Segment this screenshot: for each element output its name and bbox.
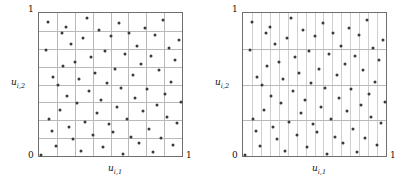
scatter-point — [62, 65, 65, 68]
scatter-point — [360, 104, 363, 107]
scatter-point — [64, 25, 67, 28]
grid-line-horizontal — [39, 120, 182, 121]
scatter-point — [48, 117, 51, 120]
scatter-point — [324, 86, 327, 89]
scatter-point — [84, 120, 87, 123]
grid-line-horizontal — [39, 102, 182, 103]
scatter-point — [376, 143, 379, 146]
scatter-point — [179, 100, 182, 103]
origin-tick-left: 0 — [28, 150, 34, 160]
scatter-point — [39, 153, 42, 156]
x-tick-max-right: 1 — [390, 150, 396, 160]
scatter-point — [72, 138, 75, 141]
scatter-point — [310, 81, 313, 84]
scatter-point — [298, 71, 301, 74]
scatter-point — [370, 115, 373, 118]
scatter-point — [282, 77, 285, 80]
scatter-point — [128, 31, 131, 34]
scatter-point — [274, 43, 277, 46]
scatter-point — [382, 38, 385, 41]
scatter-point — [146, 88, 149, 91]
scatter-point — [350, 88, 353, 91]
scatter-point — [306, 146, 309, 149]
scatter-point — [92, 133, 95, 136]
scatter-point — [88, 89, 91, 92]
scatter-point — [268, 25, 271, 28]
scatter-point — [168, 46, 171, 49]
scatter-point — [116, 105, 119, 108]
scatter-point — [270, 95, 273, 98]
scatter-point — [336, 74, 339, 77]
scatter-point — [144, 27, 147, 30]
scatter-point — [280, 101, 283, 104]
figure-container: ui,2 ui,1 1 0 1 ui,2 ui,1 1 0 1 — [0, 0, 407, 186]
scatter-point — [150, 54, 153, 57]
scatter-point — [46, 21, 49, 24]
scatter-point — [272, 125, 275, 128]
scatter-point — [330, 118, 333, 121]
scatter-point — [126, 118, 129, 121]
scatter-panel-left: ui,2 ui,1 1 0 1 — [0, 0, 203, 186]
scatter-point — [250, 21, 253, 24]
scatter-point — [338, 96, 341, 99]
scatter-point — [118, 22, 121, 25]
scatter-point — [358, 34, 361, 37]
scatter-point — [374, 80, 377, 83]
scatter-point — [318, 68, 321, 71]
scatter-point — [94, 71, 97, 74]
scatter-point — [102, 146, 105, 149]
scatter-panel-right: ui,2 ui,1 1 0 1 — [204, 0, 407, 186]
scatter-point — [100, 98, 103, 101]
scatter-point — [130, 135, 133, 138]
origin-tick-right: 0 — [232, 150, 238, 160]
scatter-point — [290, 17, 293, 20]
scatter-point — [316, 130, 319, 133]
grid-line-horizontal — [39, 67, 182, 68]
scatter-point — [172, 143, 175, 146]
scatter-point — [302, 29, 305, 32]
scatter-point — [86, 17, 89, 20]
scatter-point — [328, 53, 331, 56]
scatter-point — [362, 69, 365, 72]
scatter-point — [156, 104, 159, 107]
scatter-point — [158, 69, 161, 72]
scatter-point — [312, 123, 315, 126]
scatter-point — [108, 123, 111, 126]
scatter-point — [286, 37, 289, 40]
scatter-point — [66, 95, 69, 98]
scatter-point — [124, 53, 127, 56]
y-tick-max-left: 1 — [28, 4, 34, 14]
scatter-point — [60, 31, 63, 34]
scatter-point — [106, 81, 109, 84]
scatter-point — [132, 74, 135, 77]
scatter-point — [176, 122, 179, 125]
scatter-point — [260, 84, 263, 87]
scatter-point — [162, 18, 165, 21]
scatter-point — [120, 86, 123, 89]
y-axis-label-left: ui,2 — [11, 77, 25, 90]
scatter-point — [134, 96, 137, 99]
scatter-point — [74, 60, 77, 63]
scatter-point — [154, 34, 157, 37]
scatter-point — [80, 150, 83, 153]
scatter-point — [258, 144, 261, 147]
scatter-point — [112, 130, 115, 133]
scatter-point — [68, 125, 71, 128]
scatter-point — [278, 60, 281, 63]
scatter-point — [262, 109, 265, 112]
scatter-point — [178, 38, 181, 41]
scatter-point — [320, 105, 323, 108]
scatter-point — [284, 150, 287, 153]
scatter-point — [378, 58, 381, 61]
plot-area-right — [242, 12, 387, 157]
scatter-point — [372, 46, 375, 49]
scatter-point — [58, 109, 61, 112]
x-axis-label-left: ui,1 — [108, 163, 122, 176]
scatter-point — [148, 127, 151, 130]
scatter-point — [366, 18, 369, 21]
scatter-point — [166, 115, 169, 118]
scatter-point — [266, 65, 269, 68]
grid-line-horizontal — [243, 49, 386, 50]
scatter-point — [174, 58, 177, 61]
y-tick-max-right: 1 — [232, 4, 238, 14]
